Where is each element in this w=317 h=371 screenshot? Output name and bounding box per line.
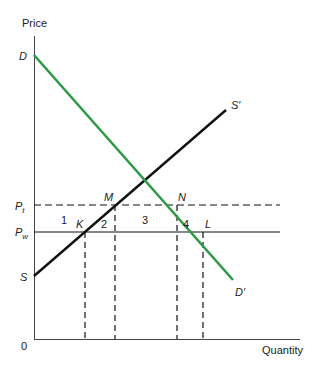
- point-l-label: L: [205, 218, 211, 230]
- demand-start-label: D: [19, 50, 27, 62]
- area-4-label: 4: [183, 218, 189, 230]
- demand-curve: [34, 55, 233, 280]
- supply-start-label: S: [20, 271, 28, 283]
- area-1-label: 1: [61, 214, 67, 226]
- world-price-label: Pw: [15, 226, 29, 241]
- point-m-label: M: [104, 191, 114, 203]
- origin-label: 0: [21, 340, 27, 352]
- point-n-label: N: [178, 191, 186, 203]
- area-2-label: 2: [101, 218, 107, 230]
- supply-curve: [34, 110, 226, 276]
- demand-end-label: D′: [235, 286, 246, 298]
- tariff-supply-demand-diagram: Price Quantity 0 D D′ S S′ Pt Pw K M N L…: [0, 0, 317, 371]
- area-3-label: 3: [142, 214, 148, 226]
- point-k-label: K: [76, 218, 84, 230]
- supply-end-label: S′: [231, 99, 241, 111]
- tariff-price-label: Pt: [15, 200, 25, 215]
- quantity-axis-label: Quantity: [262, 344, 303, 356]
- price-axis-label: Price: [22, 17, 47, 29]
